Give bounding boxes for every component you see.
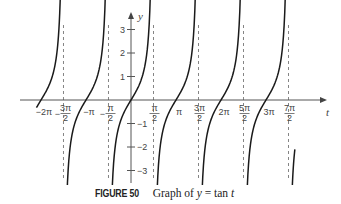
figure-caption-text: Graph of y = tan t	[147, 187, 234, 199]
x-tick-sign: −	[100, 109, 105, 119]
y-axis-arrow-icon	[128, 12, 134, 19]
x-tick-label: 3π	[263, 107, 274, 117]
tan-branch	[67, 0, 106, 185]
x-axis-arrow-icon	[320, 97, 327, 103]
x-tick-label: π	[176, 107, 182, 117]
x-tick-numerator: 3π	[60, 103, 71, 113]
x-tick-label: 2π	[218, 107, 229, 117]
y-axis-label: y	[137, 10, 143, 22]
tan-branch	[36, 0, 60, 108]
figure-number: FIGURE 50	[95, 188, 139, 199]
x-axis-label: t	[326, 106, 330, 118]
x-tick-denominator: 2	[242, 113, 247, 123]
tan-graph: t y 321−1−2−3 −2π−3π2−π−π2π2π3π22π5π23π7…	[0, 0, 341, 185]
x-tick-label: −2π	[36, 107, 52, 117]
y-tick-label: 1	[120, 72, 125, 82]
y-tick-label: −2	[137, 142, 147, 152]
y-tick-label: 2	[120, 48, 125, 58]
tan-curves	[36, 0, 294, 185]
figure-caption: FIGURE 50 Graph of y = tan t	[95, 183, 234, 201]
asymptote-lines	[63, 25, 288, 180]
x-tick-numerator: 7π	[284, 103, 295, 113]
x-tick-numerator: 3π	[194, 103, 205, 113]
x-tick-denominator: 2	[63, 113, 68, 123]
x-tick-numerator: π	[151, 103, 157, 113]
y-tick-label: −3	[137, 166, 147, 176]
x-tick-denominator: 2	[108, 113, 113, 123]
tan-branch	[201, 0, 240, 185]
y-tick-label: −1	[137, 119, 147, 129]
y-tick-label: 3	[120, 25, 125, 35]
x-tick-denominator: 2	[152, 113, 157, 123]
x-tick-denominator: 2	[287, 113, 292, 123]
x-tick-numerator: 5π	[239, 103, 250, 113]
tan-branch	[157, 0, 196, 185]
x-tick-numerator: π	[107, 103, 113, 113]
x-tick-label: −π	[83, 107, 94, 117]
tan-branch	[247, 0, 286, 185]
tan-branch	[292, 149, 295, 185]
x-tick-denominator: 2	[197, 113, 202, 123]
